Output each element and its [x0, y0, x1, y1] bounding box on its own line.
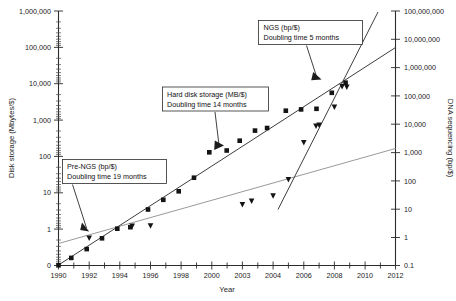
y-left-tick-label: 100,000	[25, 43, 51, 52]
y-left-tick-label: 1,000,000	[19, 7, 51, 16]
data-point-square	[330, 91, 335, 96]
y-axis-left-title: Disk storage (Mbytes/$)	[7, 97, 16, 178]
x-tick-label: 1998	[173, 271, 189, 280]
chart-figure: 1,000,000 100,000 10,000 1,000 100 10 1 …	[0, 0, 456, 301]
y-right-tick-label: 1,000,000	[404, 63, 436, 72]
data-point-square	[176, 189, 181, 194]
y-left-tick-label: 10	[43, 188, 51, 197]
data-point-square	[146, 207, 151, 212]
data-point-square	[192, 175, 197, 180]
x-tick-label: 2004	[265, 271, 281, 280]
x-tick-label: 2006	[296, 271, 312, 280]
annotation-pre-ngs-line2: Doubling time 19 months	[67, 172, 147, 181]
x-tick-label: 2008	[326, 271, 342, 280]
annotation-ngs-line2: Doubling time 5 months	[264, 33, 340, 42]
x-axis-title: Year	[219, 285, 235, 294]
y-right-tick-label: 10	[404, 205, 412, 214]
data-point-square	[265, 126, 270, 131]
y-left-tick-label: 1,000	[33, 116, 51, 125]
x-tick-label: 2012	[388, 271, 404, 280]
x-tick-label: 1996	[143, 271, 159, 280]
data-point-square	[100, 236, 105, 241]
y-right-tick-label: 100,000,000	[404, 7, 444, 16]
x-tick-label: 1990	[51, 271, 67, 280]
data-point-square	[69, 256, 74, 261]
data-point-square	[299, 107, 304, 112]
y-right-tick-label: 10,000,000	[404, 35, 440, 44]
x-tick-label: 1994	[112, 271, 128, 280]
annotation-pre-ngs-line1: Pre-NGS (bp/$)	[67, 162, 117, 171]
annotation-hard-disk-line1: Hard disk storage (MB/$)	[167, 90, 247, 99]
y-right-tick-label: 0.1	[404, 261, 414, 270]
data-point-square	[224, 148, 229, 153]
y-right-tick-label: 10,000	[404, 120, 426, 129]
x-tick-label: 1992	[81, 271, 97, 280]
y-right-tick-label: 1	[404, 233, 408, 242]
y-right-tick-label: 100	[404, 177, 416, 186]
annotation-hard-disk-line2: Doubling time 14 months	[167, 100, 247, 109]
data-point-square	[161, 198, 166, 203]
data-point-square	[84, 247, 89, 252]
y-right-tick-label: 1,000	[404, 148, 422, 157]
x-tick-label: 2003	[234, 271, 250, 280]
data-point-square	[237, 138, 242, 143]
data-point-square	[115, 226, 120, 231]
data-point-square	[56, 263, 61, 268]
x-tick-label: 2010	[357, 271, 373, 280]
chart-svg: 1,000,000 100,000 10,000 1,000 100 10 1 …	[0, 0, 456, 301]
y-left-tick-label: 1	[47, 225, 51, 234]
x-tick-label: 2000	[204, 271, 220, 280]
data-point-square	[253, 128, 258, 133]
y-axis-right-title: DNA sequencing (bp/$)	[446, 99, 455, 178]
data-point-square	[207, 150, 212, 155]
y-left-tick-label: 100	[39, 152, 51, 161]
y-left-tick-label: 0	[47, 261, 51, 270]
y-left-tick-label: 10,000	[29, 79, 51, 88]
data-point-square	[314, 107, 319, 112]
y-right-tick-label: 100,000	[404, 92, 430, 101]
data-point-square	[284, 108, 289, 113]
annotation-ngs-line1: NGS (bp/$)	[264, 23, 300, 32]
